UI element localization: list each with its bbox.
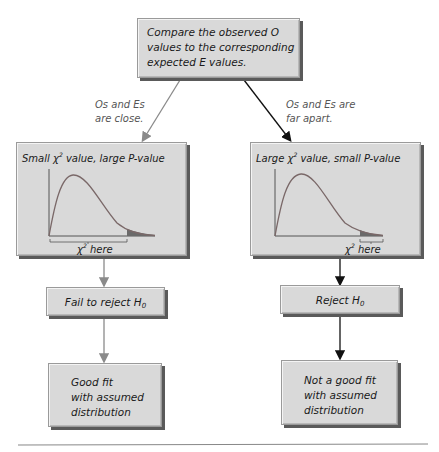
good-fit-line-1: Good fit: [71, 375, 113, 389]
small-chi-square-panel: Small χ2 value, large P-value χ2 here: [16, 142, 187, 256]
branch-label-apart-2: far apart.: [286, 112, 333, 126]
branch-label-close-2: are close.: [95, 112, 144, 126]
not-good-fit-line-3: distribution: [304, 403, 364, 417]
arrow-to-left-panel: [143, 80, 180, 140]
not-good-fit-line-2: with assumed: [304, 388, 377, 402]
good-fit-line-2: with assumed: [71, 390, 144, 404]
not-good-fit-box: Not a good fit with assumed distribution: [281, 360, 398, 425]
chi-square-here-label: χ2 here: [77, 239, 113, 257]
large-chi-square-panel: Large χ2 value, small P-value χ2 here: [250, 142, 421, 256]
not-good-fit-line-1: Not a good fit: [304, 373, 376, 387]
fail-to-reject-label: Fail to reject H0: [47, 295, 164, 313]
bottom-rule: [18, 444, 428, 445]
reject-box: Reject H0: [280, 285, 400, 314]
good-fit-line-3: distribution: [71, 405, 131, 419]
chi-square-here-label: χ2 here: [345, 239, 381, 257]
compare-line-1: Compare the observed O: [147, 25, 279, 39]
chi-square-curve-large: [251, 143, 422, 257]
compare-line-3: expected E values.: [147, 55, 247, 69]
compare-line-2: values to the corresponding: [147, 40, 294, 54]
fail-to-reject-box: Fail to reject H0: [46, 287, 165, 316]
good-fit-box: Good fit with assumed distribution: [48, 363, 162, 427]
branch-label-close-1: Os and Es: [95, 98, 145, 112]
reject-label: Reject H0: [281, 293, 399, 311]
branch-label-apart-1: Os and Es are: [286, 98, 355, 112]
arrow-to-right-panel: [244, 80, 290, 140]
compare-box: Compare the observed O values to the cor…: [137, 18, 300, 78]
